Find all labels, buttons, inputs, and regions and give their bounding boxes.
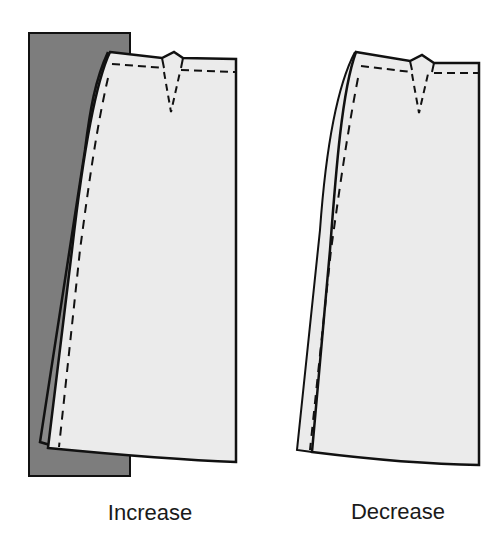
decrease-label: Decrease [298, 499, 498, 525]
decrease-panel [297, 52, 479, 465]
increase-panel [29, 33, 236, 476]
skirt-adjustment-diagram [0, 0, 499, 551]
increase-label: Increase [50, 500, 250, 526]
